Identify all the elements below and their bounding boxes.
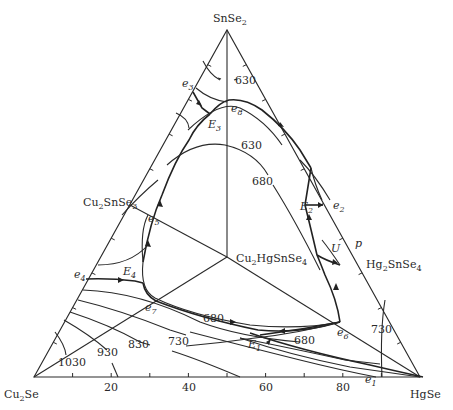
isotherm-730-right: 730: [371, 323, 392, 336]
isotherm-680-low-a: 680: [203, 312, 224, 325]
ternary-diagram: SnSe2 Cu2Se HgSe Cu2HgSnSe4 Cu2SnSe3 Hg2…: [0, 0, 453, 410]
point-E2-label: E2: [299, 200, 313, 215]
compound-center-label: Cu2HgSnSe4: [236, 252, 307, 267]
point-e8-label: e8: [231, 102, 243, 117]
isotherm-630-mid: 630: [241, 139, 262, 152]
isotherm-680-low-b: 680: [294, 334, 315, 347]
isotherm-630-top: 630: [235, 74, 256, 87]
axis-tick-60: 60: [259, 381, 273, 394]
axis-tick-20: 20: [104, 381, 118, 394]
point-e4-label: e4: [74, 268, 86, 283]
point-e2-label: e2: [333, 199, 345, 214]
vertex-bottom-right-label: HgSe: [410, 388, 441, 401]
point-e3-label: e3: [182, 77, 194, 92]
point-e1-label: e1: [365, 373, 377, 388]
axis-tick-80: 80: [336, 381, 350, 394]
point-E3-label: E3: [207, 118, 221, 133]
axis-tick-40: 40: [182, 381, 196, 394]
point-e5-label: e5: [148, 212, 160, 227]
isotherm-730-low: 730: [168, 335, 189, 348]
compound-right-label: Hg2SnSe4: [366, 258, 422, 273]
point-e6-label: e6: [337, 326, 349, 341]
vertex-top-label: SnSe2: [213, 12, 247, 27]
point-U-label: U: [331, 242, 341, 255]
isotherm-1030: 1030: [58, 356, 86, 369]
isotherm-680-mid: 680: [252, 175, 273, 188]
point-E1-label: E1: [247, 338, 261, 353]
bottom-axis-ticks: [73, 373, 382, 377]
isotherm-830: 830: [128, 338, 149, 351]
isotherm-930: 930: [97, 346, 118, 359]
point-E4-label: E4: [122, 265, 136, 280]
compound-left-label: Cu2SnSe3: [83, 196, 137, 211]
point-p-label: p: [355, 237, 362, 250]
vertex-bottom-left-label: Cu2Se: [4, 388, 39, 403]
